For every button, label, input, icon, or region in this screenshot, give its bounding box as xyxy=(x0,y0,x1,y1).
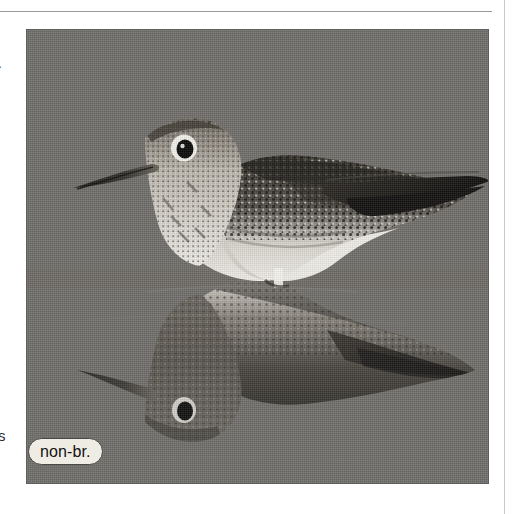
shorebird-illustration xyxy=(27,30,488,483)
margin-fragment-letter: s xyxy=(0,428,7,444)
page-vertical-rule xyxy=(504,0,505,514)
bird-photo-plate: non-br. xyxy=(27,30,488,483)
page-horizontal-rule xyxy=(0,11,492,12)
plumage-status-badge: non-br. xyxy=(28,438,103,465)
margin-fragment-dash: - xyxy=(0,61,4,70)
